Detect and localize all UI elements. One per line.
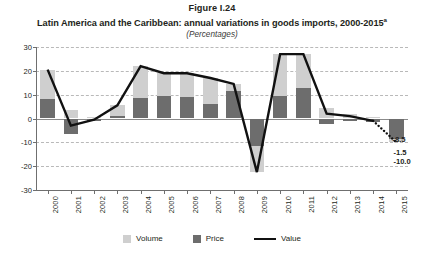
legend-label-volume: Volume	[136, 234, 163, 243]
x-axis-tick	[71, 190, 72, 194]
x-axis-tick	[48, 190, 49, 194]
x-axis-tick	[257, 190, 258, 194]
x-axis-tick	[303, 190, 304, 194]
x-axis-tick	[210, 190, 211, 194]
x-axis-label-2007: 2007	[214, 196, 223, 213]
x-axis-label-2015: 2015	[400, 196, 409, 213]
x-axis-tick	[396, 190, 397, 194]
y-axis-label: 30	[2, 43, 32, 52]
legend-item-value[interactable]: Value	[254, 234, 301, 243]
x-axis-label-2005: 2005	[167, 196, 176, 213]
value-line-solid	[48, 54, 374, 172]
figure-header: Figure I.24 Latin America and the Caribb…	[0, 3, 424, 40]
x-axis-label-2003: 2003	[121, 196, 130, 213]
figure-title-footnote-marker: a	[384, 16, 387, 23]
legend-label-value: Value	[281, 234, 301, 243]
x-axis-label-2009: 2009	[260, 196, 269, 213]
x-axis-label-2001: 2001	[74, 196, 83, 213]
legend-item-price[interactable]: Price	[193, 234, 224, 243]
plot-area: 3020100-10-20-30 -8.5-1.5-10.0	[36, 47, 408, 190]
y-axis-label: -30	[2, 186, 32, 195]
legend-label-price: Price	[206, 234, 224, 243]
value-line-layer	[36, 47, 408, 190]
x-axis-tick	[141, 190, 142, 194]
legend-swatch-icon-volume	[123, 235, 131, 243]
x-axis-tick	[117, 190, 118, 194]
x-axis-label-2002: 2002	[98, 196, 107, 213]
x-axis-label-2000: 2000	[51, 196, 60, 213]
legend-line-icon-value	[254, 238, 276, 240]
figure-title: Latin America and the Caribbean: annual …	[0, 14, 424, 29]
x-axis-tick	[164, 190, 165, 194]
figure-subtitle: (Percentages)	[0, 29, 424, 40]
x-axis-tick	[350, 190, 351, 194]
x-axis-label-2012: 2012	[330, 196, 339, 213]
figure-number: Figure I.24	[0, 3, 424, 14]
x-axis-label-2006: 2006	[191, 196, 200, 213]
x-axis-label-2010: 2010	[284, 196, 293, 213]
x-axis-label-2008: 2008	[237, 196, 246, 213]
x-axis-line	[36, 190, 408, 191]
x-axis-label-2004: 2004	[144, 196, 153, 213]
y-axis-label: 10	[2, 90, 32, 99]
figure-container: Figure I.24 Latin America and the Caribb…	[0, 0, 424, 260]
chart-legend: VolumePriceValue	[0, 234, 424, 243]
y-axis-label: 20	[2, 66, 32, 75]
y-axis-label: -20	[2, 162, 32, 171]
x-axis-label-2014: 2014	[377, 196, 386, 213]
legend-swatch-icon-price	[193, 235, 201, 243]
y-axis-label: 0	[2, 114, 32, 123]
legend-item-volume[interactable]: Volume	[123, 234, 163, 243]
data-label-price: -8.5	[392, 135, 405, 144]
figure-title-text: Latin America and the Caribbean: annual …	[37, 18, 384, 28]
x-axis-tick	[327, 190, 328, 194]
x-axis-tick	[234, 190, 235, 194]
y-axis-label: -10	[2, 138, 32, 147]
x-axis-tick	[280, 190, 281, 194]
x-axis-label-2011: 2011	[307, 196, 316, 213]
x-axis-tick	[187, 190, 188, 194]
x-axis-tick	[94, 190, 95, 194]
data-label-value: -10.0	[393, 157, 410, 166]
x-axis-tick	[373, 190, 374, 194]
data-label-volume: -1.5	[393, 148, 406, 157]
x-axis-label-2013: 2013	[353, 196, 362, 213]
